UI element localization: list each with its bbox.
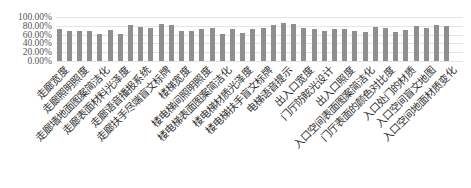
- gridline: [56, 26, 463, 27]
- bar: [128, 25, 133, 61]
- bar-chart: 100.00%80.00%60.00%40.00%20.00%0.00%走廊宽度…: [0, 0, 471, 188]
- bar: [210, 28, 215, 61]
- bar: [393, 32, 398, 61]
- bar: [77, 31, 82, 61]
- bar: [138, 27, 143, 61]
- bar: [250, 29, 255, 61]
- bar: [220, 34, 225, 61]
- bar: [301, 28, 306, 61]
- bar: [281, 23, 286, 61]
- bar: [169, 25, 174, 61]
- bar: [322, 31, 327, 61]
- bar: [352, 31, 357, 61]
- bar: [403, 30, 408, 61]
- bar: [199, 29, 204, 61]
- bar: [118, 34, 123, 61]
- gridline: [56, 17, 463, 18]
- gridline: [56, 61, 463, 62]
- bar: [97, 34, 102, 61]
- bar: [189, 31, 194, 61]
- bar: [179, 31, 184, 61]
- bar: [291, 24, 296, 61]
- bar: [332, 29, 337, 61]
- bar: [67, 31, 72, 61]
- bar: [148, 28, 153, 61]
- bar: [240, 33, 245, 61]
- bar: [261, 28, 266, 61]
- bar: [424, 28, 429, 61]
- bar: [373, 27, 378, 61]
- bar: [434, 25, 439, 61]
- bar: [383, 28, 388, 61]
- y-tick-label: 0.00%: [0, 56, 52, 66]
- bar: [159, 24, 164, 61]
- bar: [87, 31, 92, 61]
- bar: [444, 26, 449, 61]
- bar: [414, 26, 419, 61]
- bar: [363, 32, 368, 61]
- bar: [57, 29, 62, 61]
- bar: [108, 30, 113, 61]
- bar: [312, 29, 317, 61]
- bar: [230, 29, 235, 61]
- bar: [342, 29, 347, 61]
- bar: [271, 25, 276, 61]
